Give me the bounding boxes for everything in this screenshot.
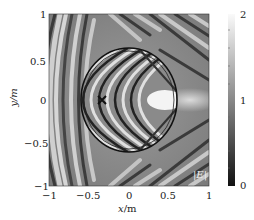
y-tick: −0.5 xyxy=(24,139,48,149)
x-tick: −0.5 xyxy=(76,191,100,201)
x-axis-label: x/m xyxy=(118,203,137,214)
x-tick: 0.5 xyxy=(160,191,176,201)
y-tick: 1 xyxy=(40,10,46,20)
colorbar-tick: 0 xyxy=(240,181,246,191)
x-tick: 0 xyxy=(126,191,132,201)
figure: 1 0.5 0 −0.5 −1 −1 −0.5 0 0.5 1 2 1 0 x/… xyxy=(0,0,254,220)
y-tick: 0 xyxy=(40,96,46,106)
colorbar-tick: 2 xyxy=(240,10,246,20)
colorbar xyxy=(228,14,235,186)
colorbar-tick: 1 xyxy=(240,96,246,106)
field-annotation: |E| xyxy=(193,169,207,180)
y-tick: 0.5 xyxy=(30,57,46,67)
x-tick: 1 xyxy=(206,191,212,201)
x-tick: −1 xyxy=(42,191,57,201)
field-map xyxy=(44,14,221,186)
y-axis-label: y/m xyxy=(8,88,19,107)
